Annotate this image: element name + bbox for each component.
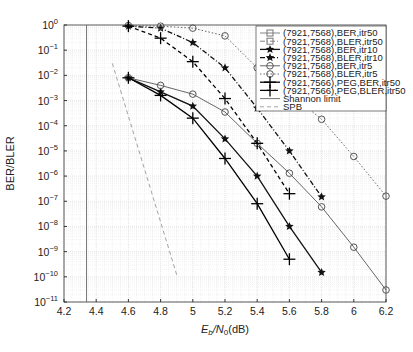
y-tick-label: 10−11 [34,294,58,308]
legend-entry: SPB [283,101,302,112]
x-tick-label: 5.2 [218,305,233,317]
y-tick-label: 10−9 [38,244,58,258]
y-tick-label: 10−6 [38,168,58,182]
x-tick-label: 4.2 [57,305,72,317]
y-tick-label: 10−3 [38,93,58,107]
y-tick-label: 10−7 [38,193,58,207]
y-tick-label: 10−2 [38,67,58,81]
y-tick-label: 10−4 [38,118,58,132]
x-axis-label: Eb/N0(dB) [201,323,249,337]
x-tick-label: 5.8 [314,305,329,317]
x-tick-label: 6 [351,305,357,317]
x-tick-label: 4.8 [153,305,168,317]
x-tick-label: 5.6 [282,305,297,317]
x-tick-label: 4.6 [121,305,136,317]
ber-bler-chart: 4.24.44.64.855.25.45.65.866.210010−110−2… [0,0,413,352]
legend: (7921,7568),BER,itr50(7921,7568),BLER,it… [256,26,406,112]
x-tick-label: 4.4 [89,305,104,317]
x-tick-label: 5.4 [250,305,265,317]
y-tick-label: 10−8 [38,218,58,232]
y-axis-label: BER/BLER [4,136,16,190]
y-tick-label: 10−5 [38,143,58,157]
x-tick-label: 5 [190,305,196,317]
x-tick-label: 6.2 [379,305,394,317]
y-tick-label: 10−1 [38,42,58,56]
y-tick-label: 10−10 [34,269,58,283]
y-tick-label: 100 [42,17,58,31]
